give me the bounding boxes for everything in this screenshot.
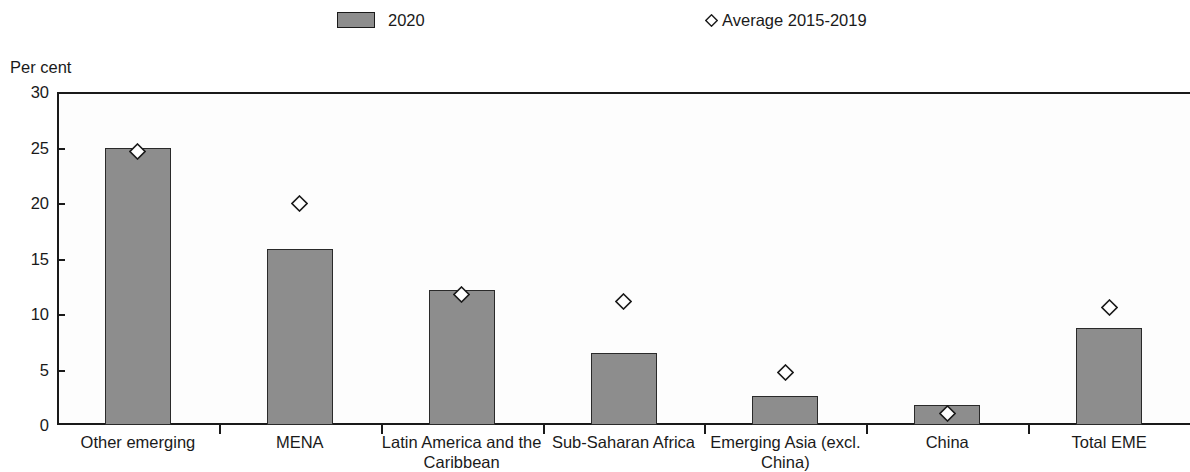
bar <box>752 396 818 425</box>
y-axis-tick-mark <box>57 148 65 150</box>
diamond-marker <box>453 286 470 303</box>
diamond-marker <box>939 405 956 422</box>
x-axis-category-label: MENA <box>212 432 388 452</box>
x-axis-category-label: Sub-Saharan Africa <box>536 432 712 452</box>
x-axis-category-label: Latin America and the Caribbean <box>374 432 550 472</box>
y-axis-tick-label: 15 <box>0 249 57 268</box>
y-axis-tick-mark <box>57 370 65 372</box>
x-axis-category-label: Other emerging <box>50 432 226 452</box>
x-axis-category-label: Emerging Asia (excl. China) <box>697 432 873 472</box>
y-axis-tick-label: 25 <box>0 138 57 157</box>
y-axis-tick-label: 20 <box>0 194 57 213</box>
x-axis-category-label: China <box>859 432 1035 452</box>
bar <box>429 290 495 425</box>
diamond-marker <box>1101 299 1118 316</box>
diamond-marker <box>777 364 794 381</box>
y-axis-tick-label: 5 <box>0 360 57 379</box>
y-axis-tick-label: 10 <box>0 305 57 324</box>
y-axis-tick-mark <box>57 259 65 261</box>
y-axis-tick-mark <box>57 203 65 205</box>
diamond-marker <box>129 143 146 160</box>
bar <box>267 249 333 425</box>
diamond-marker <box>615 293 632 310</box>
bar <box>1076 328 1142 425</box>
diamond-marker <box>291 195 308 212</box>
y-axis-tick-label: 30 <box>0 83 57 102</box>
bar <box>591 353 657 425</box>
y-axis-tick-mark <box>57 314 65 316</box>
x-axis-category-label: Total EME <box>1021 432 1190 452</box>
bar <box>105 148 171 426</box>
y-axis-tick-label: 0 <box>0 416 57 435</box>
